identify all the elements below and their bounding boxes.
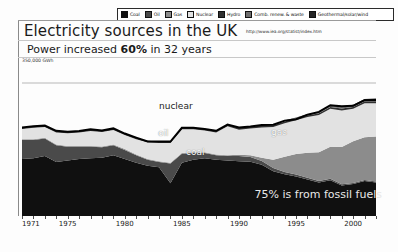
series-label-coal: coal xyxy=(186,147,204,157)
legend-label: Gas xyxy=(174,12,182,17)
x-axis-tick-mark xyxy=(205,216,206,219)
x-axis-tick-label: 1985 xyxy=(173,220,191,228)
series-label-nuclear: nuclear xyxy=(159,101,193,111)
x-axis-tick-mark xyxy=(68,216,69,219)
x-axis-tick-mark xyxy=(45,216,46,219)
legend-swatch-icon xyxy=(121,11,128,18)
legend-item-coal: Coal xyxy=(121,11,140,18)
x-axis-tick-mark xyxy=(79,216,80,219)
legend-label: Nuclear xyxy=(196,12,213,17)
x-axis-tick-mark xyxy=(296,216,297,219)
legend-label: Oil xyxy=(154,12,160,17)
fossil-fuel-annotation: 75% is from fossil fuels xyxy=(252,188,382,201)
x-axis-tick-mark xyxy=(376,216,377,219)
x-axis-tick-mark xyxy=(319,216,320,219)
legend-label: Geothermal/solar/wind xyxy=(318,12,368,17)
x-axis: 1971197519801985199019952000 xyxy=(22,216,376,232)
series-label-oil: oil xyxy=(158,128,169,138)
x-axis-tick-mark xyxy=(285,216,286,219)
legend-label: Comb. renew. & waste xyxy=(254,12,304,17)
x-axis-tick-mark xyxy=(307,216,308,219)
subtitle-text-post: in 32 years xyxy=(147,43,212,56)
legend-label: Coal xyxy=(130,12,140,17)
x-axis-tick-mark xyxy=(33,216,34,219)
legend-item-comb-renew-waste: Comb. renew. & waste xyxy=(245,11,304,18)
x-axis-tick-mark xyxy=(159,216,160,219)
x-axis-tick-mark xyxy=(148,216,149,219)
legend-swatch-icon xyxy=(245,11,252,18)
x-axis-tick-mark xyxy=(273,216,274,219)
x-axis-tick-mark xyxy=(113,216,114,219)
x-axis-tick-label: 1980 xyxy=(116,220,134,228)
x-axis-tick-mark xyxy=(125,216,126,219)
x-axis-tick-label: 1990 xyxy=(230,220,248,228)
legend-label: Hydro xyxy=(227,12,240,17)
legend-item-oil: Oil xyxy=(145,11,160,18)
x-axis-tick-mark xyxy=(228,216,229,219)
legend-swatch-icon xyxy=(145,11,152,18)
chart-title: Electricity sources in the UK xyxy=(24,22,237,40)
legend-swatch-icon xyxy=(165,11,172,18)
x-axis-tick-mark xyxy=(136,216,137,219)
x-axis-tick-mark xyxy=(91,216,92,219)
subtitle-highlight: 60% xyxy=(121,43,147,56)
x-axis-tick-mark xyxy=(56,216,57,219)
legend-swatch-icon xyxy=(187,11,194,18)
x-axis-tick-mark xyxy=(193,216,194,219)
legend-swatch-icon xyxy=(218,11,225,18)
chart-subtitle: Power increased 60% in 32 years xyxy=(27,43,212,57)
x-axis-tick-mark xyxy=(22,216,23,219)
x-axis-tick-mark xyxy=(102,216,103,219)
x-axis-tick-mark xyxy=(330,216,331,219)
legend-item-geothermal-solar-wind: Geothermal/solar/wind xyxy=(309,11,368,18)
x-axis-tick-label: 1995 xyxy=(287,220,305,228)
x-axis-tick-mark xyxy=(262,216,263,219)
x-axis-tick-mark xyxy=(353,216,354,219)
legend-item-gas: Gas xyxy=(165,11,182,18)
legend-item-nuclear: Nuclear xyxy=(187,11,213,18)
x-axis-tick-label: 1975 xyxy=(59,220,77,228)
x-axis-tick-mark xyxy=(170,216,171,219)
source-url: http://www.iea.org/statist/index.htm xyxy=(246,29,322,35)
x-axis-tick-mark xyxy=(342,216,343,219)
series-label-gas: gas xyxy=(271,127,287,137)
x-axis-tick-mark xyxy=(250,216,251,219)
legend-item-hydro: Hydro xyxy=(218,11,240,18)
x-axis-tick-label: 2000 xyxy=(344,220,362,228)
x-axis-tick-mark xyxy=(182,216,183,219)
x-axis-tick-label: 1971 xyxy=(22,220,40,228)
x-axis-tick-mark xyxy=(365,216,366,219)
x-axis-tick-mark xyxy=(239,216,240,219)
x-axis-tick-mark xyxy=(216,216,217,219)
legend-swatch-icon xyxy=(309,11,316,18)
subtitle-text-pre: Power increased xyxy=(27,43,121,56)
